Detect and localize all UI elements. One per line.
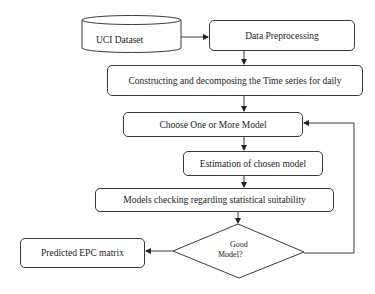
estimation-box: Estimation of chosen model xyxy=(183,151,323,176)
uci-dataset-label: UCI Dataset xyxy=(96,35,143,45)
predicted-epc-box: Predicted EPC matrix xyxy=(20,238,145,268)
data-preprocessing-label: Data Preprocessing xyxy=(245,31,319,41)
decision-label-line2: Model? xyxy=(218,250,242,260)
choose-model-box: Choose One or More Model xyxy=(123,112,303,137)
models-checking-box: Models checking regarding statistical su… xyxy=(95,188,334,212)
choose-model-label: Choose One or More Model xyxy=(159,120,266,130)
decision-label-line1: Good xyxy=(230,240,248,250)
constructing-timeseries-label: Constructing and decomposing the Time se… xyxy=(129,76,342,86)
models-checking-label: Models checking regarding statistical su… xyxy=(123,195,306,205)
constructing-timeseries-box: Constructing and decomposing the Time se… xyxy=(107,65,363,96)
predicted-epc-label: Predicted EPC matrix xyxy=(41,248,124,258)
data-preprocessing-box: Data Preprocessing xyxy=(209,20,355,51)
estimation-label: Estimation of chosen model xyxy=(200,159,306,169)
flowchart-canvas: UCI Dataset Data Preprocessing Construct… xyxy=(0,0,375,294)
uci-dataset-cylinder xyxy=(82,16,181,53)
